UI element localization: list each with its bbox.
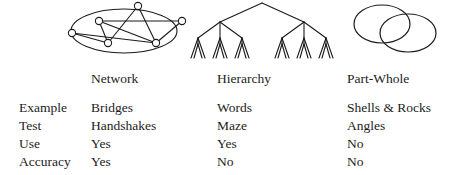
network-edges: [72, 6, 182, 43]
tree-level-2-edges: [198, 22, 326, 38]
cell-network: Bridges: [91, 99, 133, 117]
cell-network: Handshakes: [91, 117, 156, 135]
cell-network: Yes: [91, 153, 111, 171]
venn-circle-left: [354, 5, 410, 43]
cell-part-whole: Angles: [347, 117, 385, 135]
cell-part-whole: No: [347, 135, 364, 153]
row-label: Accuracy: [19, 153, 71, 171]
cell-part-whole: Shells & Rocks: [347, 99, 431, 117]
cell-part-whole: No: [347, 153, 364, 171]
cell-hierarchy: Words: [217, 99, 252, 117]
caption-network: Network: [91, 70, 138, 88]
diagram-captions: Network Hierarchy Part-Whole: [0, 70, 452, 88]
table-row: Test Handshakes Maze Angles: [0, 117, 452, 135]
row-label: Test: [19, 117, 41, 135]
venn-circle-right: [380, 14, 436, 52]
caption-hierarchy: Hierarchy: [217, 70, 271, 88]
table-row: Example Bridges Words Shells & Rocks: [0, 99, 452, 117]
row-label: Example: [19, 99, 67, 117]
part-whole-venn-svg: [348, 0, 444, 66]
diagram-row: [0, 0, 452, 66]
network-graph-svg: [58, 0, 190, 66]
caption-part-whole: Part-Whole: [347, 70, 409, 88]
hierarchy-diagram: [186, 0, 338, 66]
table-row: Use Yes Yes No: [0, 135, 452, 153]
figure-root: Network Hierarchy Part-Whole Example Bri…: [0, 0, 452, 175]
hierarchy-tree-svg: [186, 0, 338, 66]
comparison-table: Example Bridges Words Shells & Rocks Tes…: [0, 99, 452, 171]
cell-network: Yes: [91, 135, 111, 153]
cell-hierarchy: Yes: [217, 135, 237, 153]
tree-level-1-edges: [220, 3, 304, 22]
cell-hierarchy: No: [217, 153, 234, 171]
part-whole-diagram: [348, 0, 444, 66]
tree-leaf-edges: [191, 38, 333, 58]
cell-hierarchy: Maze: [217, 117, 247, 135]
network-diagram: [58, 0, 190, 66]
row-label: Use: [19, 135, 40, 153]
table-row: Accuracy Yes No No: [0, 153, 452, 171]
